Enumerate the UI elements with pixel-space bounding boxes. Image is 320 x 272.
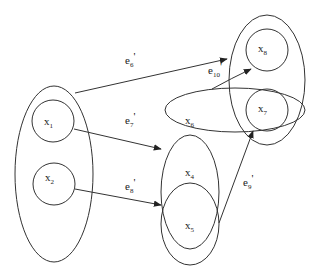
label-x4: x4 [185,166,195,181]
hypergraph-diagram: x1 x2 x4 x5 x6 x7 x8 e6' e7' e8' e9' e10… [0,0,320,272]
label-e8: e8' [125,176,135,195]
label-e9: e9' [243,172,253,191]
edge-e7 [74,129,161,149]
label-x1: x1 [44,115,54,130]
label-x7: x7 [258,102,268,117]
label-e7: e7' [125,110,135,129]
edge-e6 [75,59,227,93]
group-x8-x7 [229,15,305,145]
edge-e9 [219,131,253,223]
label-x2: x2 [45,171,55,186]
node-x1 [32,100,74,142]
node-x2 [33,163,75,205]
label-e6: e6' [125,50,135,69]
node-x7 [246,89,288,131]
node-x8 [246,29,288,71]
label-x5: x5 [185,219,195,234]
edge-e8 [75,189,161,205]
label-x6: x6 [185,114,195,129]
label-x8: x8 [258,42,268,57]
group-x1-x2 [15,86,93,262]
